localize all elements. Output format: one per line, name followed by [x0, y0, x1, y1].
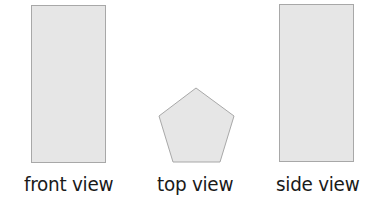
- top-view-pentagon: [159, 88, 234, 162]
- front-view-rectangle: [31, 5, 106, 163]
- side-view-label: side view: [276, 172, 359, 196]
- side-view-rectangle: [279, 4, 354, 162]
- top-view-label: top view: [157, 172, 233, 196]
- front-view-label: front view: [24, 172, 113, 196]
